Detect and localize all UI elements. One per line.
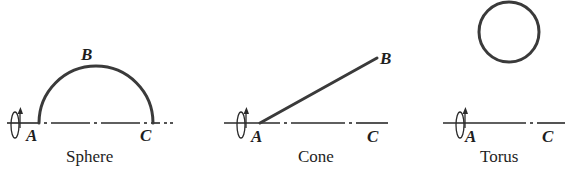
point-label-a: A bbox=[464, 127, 476, 146]
caption-cone: Cone bbox=[298, 147, 334, 166]
point-label-c: C bbox=[140, 126, 152, 145]
point-label-c: C bbox=[367, 127, 379, 146]
point-label-b: B bbox=[80, 45, 92, 64]
torus-generating-circle bbox=[479, 2, 539, 62]
sphere-panel: B A C Sphere bbox=[7, 45, 173, 166]
point-label-a: A bbox=[250, 127, 262, 146]
torus-panel: A C Torus bbox=[443, 2, 565, 166]
surfaces-of-revolution-diagram: B A C Sphere B A C Cone bbox=[0, 0, 567, 170]
cone-panel: B A C Cone bbox=[224, 49, 391, 166]
cone-generating-line bbox=[260, 58, 377, 123]
caption-torus: Torus bbox=[480, 147, 518, 166]
point-label-b: B bbox=[379, 49, 391, 68]
sphere-generating-curve bbox=[39, 66, 153, 123]
caption-sphere: Sphere bbox=[66, 147, 113, 166]
point-label-c: C bbox=[542, 127, 554, 146]
point-label-a: A bbox=[25, 126, 37, 145]
